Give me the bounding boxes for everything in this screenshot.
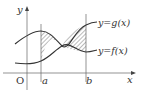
origin-label: O	[16, 75, 24, 86]
y-axis-label: y	[16, 4, 23, 15]
curve-g-label: y=g(x)	[97, 17, 130, 28]
area-between-curves-diagram: y x O a b y=g(x) y=f(x)	[0, 0, 142, 94]
bound-a-label: a	[42, 75, 48, 86]
x-axis-label: x	[127, 74, 133, 85]
bound-b-label: b	[86, 75, 92, 86]
curve-f-label: y=f(x)	[97, 45, 128, 56]
y-axis-arrow-icon	[25, 6, 29, 11]
